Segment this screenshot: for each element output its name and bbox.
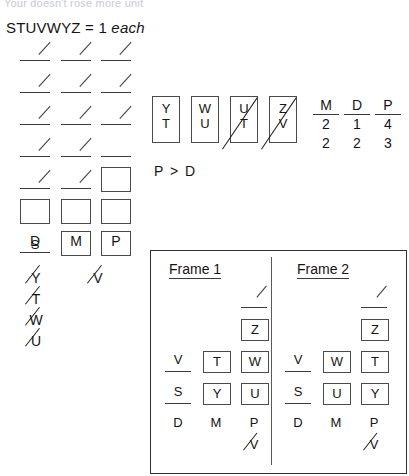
tally-blank bbox=[101, 156, 131, 157]
tally-slash-mark bbox=[69, 45, 82, 60]
frame-letter-blank: S bbox=[285, 383, 311, 404]
number-column-p: P43 bbox=[375, 97, 401, 153]
tally-row bbox=[20, 70, 146, 102]
tally-column-labels: DMP bbox=[20, 233, 146, 251]
frame-letter-blank: S bbox=[165, 383, 191, 404]
frame-cell: Z bbox=[241, 319, 269, 341]
inequality-note: P > D bbox=[154, 163, 197, 179]
number-column-header: D bbox=[344, 97, 370, 115]
frame-column-label-m: M bbox=[203, 415, 229, 431]
tally-cell bbox=[20, 70, 53, 97]
frame-letter-blank: V bbox=[165, 351, 191, 372]
pair-box-top-letter: Z bbox=[270, 101, 296, 116]
tally-column-label-d: D bbox=[20, 233, 50, 249]
frame-column-label-p: P bbox=[241, 415, 267, 431]
tally-slash-mark bbox=[28, 77, 41, 92]
tally-slash-mark bbox=[109, 45, 122, 60]
tally-cell bbox=[20, 38, 53, 65]
frame-letter-box: T bbox=[361, 351, 389, 373]
tally-row bbox=[20, 198, 146, 230]
frame-letter-box: W bbox=[323, 351, 351, 373]
tally-blank bbox=[20, 188, 50, 189]
tally-cell bbox=[20, 102, 53, 129]
eliminated-letters-right: V bbox=[90, 270, 120, 294]
tally-row bbox=[20, 166, 146, 198]
frame-letter-box: U bbox=[241, 383, 269, 405]
tally-cell bbox=[101, 70, 134, 97]
tally-blank bbox=[61, 124, 91, 125]
tally-box bbox=[101, 199, 131, 224]
tally-blank bbox=[20, 252, 50, 253]
tally-column-label-m: M bbox=[61, 233, 91, 249]
pair-box-4: ZV bbox=[269, 96, 297, 143]
frame-cell: Y bbox=[203, 383, 231, 405]
tally-slash-mark bbox=[69, 109, 82, 124]
frame-cell: T bbox=[203, 351, 231, 373]
tally-slash-mark bbox=[28, 173, 41, 188]
pair-box-top-letter: Y bbox=[153, 101, 179, 116]
number-column-header: P bbox=[375, 97, 401, 115]
frame-cell: U bbox=[323, 383, 351, 405]
number-column-value: 3 bbox=[375, 134, 401, 153]
tally-cell bbox=[61, 198, 94, 225]
tally-cell bbox=[20, 198, 53, 225]
tally-blank bbox=[61, 92, 91, 93]
frame-column-label-d: D bbox=[285, 415, 311, 431]
tally-cell bbox=[101, 166, 134, 193]
legend-equals-value: = 1 bbox=[85, 19, 107, 36]
eliminated-letter-v: V bbox=[90, 270, 106, 286]
eliminated-letter-u: U bbox=[28, 333, 44, 349]
tally-row bbox=[20, 38, 146, 70]
frames-panel: Frame 1 Frame 2 ZVTWSYUDMPV ZVWTSUYDMPV bbox=[150, 250, 407, 474]
eliminated-letter-t: T bbox=[28, 291, 44, 307]
frame-letter-box: Y bbox=[361, 383, 389, 405]
clipped-header-text: Your doesn't rose more unit bbox=[4, 0, 204, 7]
tally-cell bbox=[20, 166, 53, 193]
number-column-value: 4 bbox=[375, 115, 401, 134]
frame-cell: S bbox=[165, 383, 193, 405]
tally-box bbox=[101, 167, 131, 192]
frame-cell: V bbox=[165, 351, 193, 373]
tally-blank bbox=[20, 156, 50, 157]
tally-cell bbox=[61, 70, 94, 97]
tally-slash-mark bbox=[109, 109, 122, 124]
pair-box-bottom-letter: U bbox=[192, 116, 218, 132]
tally-slash-mark bbox=[28, 109, 41, 124]
number-column-value: 2 bbox=[344, 134, 370, 153]
tally-blank bbox=[61, 188, 91, 189]
tally-blank bbox=[61, 60, 91, 61]
number-column-m: M22 bbox=[313, 97, 339, 153]
pair-box-top-letter: U bbox=[231, 101, 257, 116]
eliminated-letters-left: YTWU bbox=[28, 270, 58, 356]
frame-slash-blank bbox=[241, 287, 267, 308]
eliminated-letter-y: Y bbox=[28, 270, 44, 286]
tally-cell bbox=[61, 166, 94, 193]
tally-cell bbox=[61, 38, 94, 65]
eliminated-letter-w: W bbox=[28, 312, 44, 328]
tally-slash-mark bbox=[28, 141, 41, 156]
tally-grid: S bbox=[20, 38, 146, 262]
number-column-value: 1 bbox=[344, 115, 370, 134]
frame-cell: Z bbox=[361, 319, 389, 341]
tally-blank bbox=[101, 60, 131, 61]
pair-box-bottom-letter: T bbox=[153, 116, 179, 132]
tally-blank bbox=[20, 92, 50, 93]
tally-cell bbox=[101, 102, 134, 129]
frame-cell: S bbox=[285, 383, 313, 405]
tally-slash-mark bbox=[28, 45, 41, 60]
tally-cell bbox=[20, 134, 53, 161]
frame-cell bbox=[241, 287, 269, 309]
frame-divider bbox=[271, 257, 272, 465]
frame-1-body: ZVTWSYUDMPV bbox=[165, 287, 269, 463]
tally-blank bbox=[101, 92, 131, 93]
frame-slash-blank bbox=[361, 287, 387, 308]
tally-blank bbox=[101, 124, 131, 125]
tally-slash-mark bbox=[109, 77, 122, 92]
frame-1-title: Frame 1 bbox=[169, 261, 221, 279]
number-column-d: D12 bbox=[344, 97, 370, 153]
tally-row bbox=[20, 102, 146, 134]
frame-cell: T bbox=[361, 351, 389, 373]
tally-blank bbox=[20, 60, 50, 61]
legend-each: each bbox=[111, 19, 144, 36]
frame-cell: Y bbox=[361, 383, 389, 405]
